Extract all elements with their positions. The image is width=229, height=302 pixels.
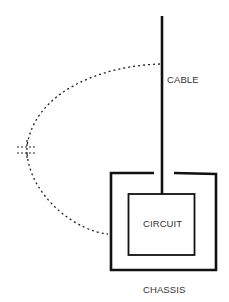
diagram-canvas	[0, 0, 229, 302]
cable-label: CABLE	[167, 74, 199, 85]
chassis-label: CHASSIS	[143, 284, 185, 295]
coupling-path-dotted	[27, 64, 160, 234]
circuit-label: CIRCUIT	[143, 218, 182, 229]
